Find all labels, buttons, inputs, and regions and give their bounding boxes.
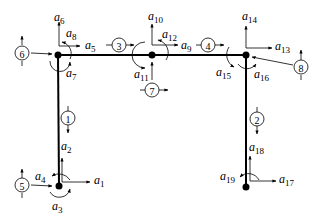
label-a3: a3 [52, 199, 63, 215]
label-a1: a1 [94, 173, 105, 189]
joint-bottom-right [243, 184, 250, 191]
label-a6: a6 [54, 10, 65, 26]
label-a18: a18 [249, 140, 265, 156]
rotation-arrow-icon [158, 40, 168, 60]
member-left-column [58, 55, 59, 186]
label-a16: a16 [254, 67, 270, 83]
label-a17: a17 [279, 172, 295, 188]
label-a9: a9 [181, 38, 192, 54]
element-number-2: 2 [255, 115, 260, 126]
label-a8: a8 [66, 26, 77, 42]
rotation-arrow-icon [240, 174, 259, 180]
element-number-6: 6 [20, 49, 25, 60]
joint-top-left [55, 52, 62, 59]
label-a4: a4 [35, 169, 46, 185]
label-a13: a13 [275, 39, 291, 55]
dof-group-bottom-right: a18 a17 a19 [220, 140, 295, 188]
label-a2: a2 [61, 139, 72, 155]
element-number-1: 1 [66, 114, 71, 125]
rotation-arrow-icon [52, 174, 70, 180]
arrow-left-icon [252, 57, 293, 65]
joint-top-middle [149, 52, 156, 59]
label-a19: a19 [220, 169, 236, 185]
frame-diagram: a6 a5 a8 a7 6 3 a10 a9 a12 a11 [0, 0, 322, 219]
rotation-arrow-icon [227, 47, 234, 67]
rotation-arrow-icon [50, 189, 70, 197]
dof-group-top-middle: a10 a9 a12 a11 [132, 9, 192, 83]
element-marker-5: 5 [15, 169, 52, 198]
dof-group-bottom-left: a2 a1 a4 a3 [35, 139, 105, 215]
element-marker-4: 4 [196, 38, 224, 52]
element-number-8: 8 [299, 63, 304, 74]
rotation-arrow-icon [62, 42, 71, 59]
element-marker-2: 2 [250, 107, 264, 134]
joint-top-right [243, 52, 250, 59]
dof-group-top-left: a6 a5 a8 a7 [50, 10, 96, 82]
label-a10: a10 [148, 9, 164, 25]
label-a14: a14 [242, 9, 258, 25]
joint-bottom-left [56, 183, 63, 190]
element-number-4: 4 [206, 41, 211, 52]
label-a11: a11 [134, 67, 149, 83]
element-marker-6: 6 [15, 36, 52, 66]
label-a12: a12 [162, 27, 177, 43]
label-a5: a5 [85, 38, 96, 54]
element-number-5: 5 [20, 181, 25, 192]
arrow-right-icon [31, 53, 52, 54]
element-marker-1: 1 [61, 106, 75, 133]
dof-group-top-right: a14 a13 a15 a16 [216, 9, 291, 83]
element-marker-3: 3 [106, 38, 134, 52]
element-number-3: 3 [117, 41, 122, 52]
arrow-right-icon [31, 185, 52, 186]
label-a7: a7 [66, 66, 77, 82]
label-a15: a15 [216, 65, 232, 81]
element-number-7: 7 [150, 86, 155, 97]
